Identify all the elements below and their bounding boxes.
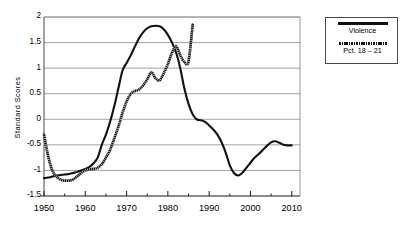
x-axis-tick-labels: 1950196019701980199020002010: [0, 0, 310, 237]
solid-line-swatch: [338, 22, 388, 25]
dotted-line-swatch: [338, 42, 388, 45]
x-tick-label: 1950: [27, 204, 61, 213]
x-tick-label: 1970: [110, 204, 144, 213]
x-tick-label: 2000: [233, 204, 267, 213]
legend-label-violence: Violence: [326, 27, 399, 35]
x-tick-label: 1960: [68, 204, 102, 213]
x-tick-label: 1990: [192, 204, 226, 213]
chart-legend: Violence Pct. 18 – 21: [325, 17, 398, 64]
legend-label-pct-18-21: Pct. 18 – 21: [326, 47, 399, 55]
x-tick-label: 2010: [275, 204, 309, 213]
x-tick-label: 1980: [151, 204, 185, 213]
plot-area: 21.510.50-0.5-1-1.5 19501960197019801990…: [0, 0, 310, 237]
chart-figure: 21.510.50-0.5-1-1.5 19501960197019801990…: [0, 0, 409, 237]
legend-entry-violence: Violence: [326, 22, 399, 35]
y-axis-title: Standard Scores: [13, 60, 22, 156]
legend-entry-pct-18-21: Pct. 18 – 21: [326, 42, 399, 55]
